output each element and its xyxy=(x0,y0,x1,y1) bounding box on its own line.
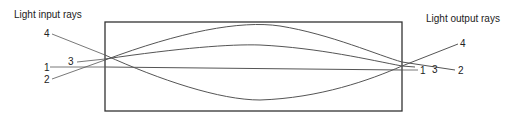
output-rays-label: Light output rays xyxy=(426,13,500,24)
ray-2-left-label: 2 xyxy=(44,74,50,85)
graded-index-rod-diagram: Light input rays Light output rays 1 1 2… xyxy=(0,0,513,119)
ray-1-right-label: 1 xyxy=(420,65,426,76)
rod-body xyxy=(105,22,402,111)
ray-2: 2 2 xyxy=(44,24,464,85)
ray-1: 1 1 xyxy=(44,62,426,76)
ray-4-left-label: 4 xyxy=(44,28,50,39)
ray-4-right-label: 4 xyxy=(460,38,466,49)
ray-1-left-label: 1 xyxy=(44,62,50,73)
ray-3-left-label: 3 xyxy=(68,56,74,67)
ray-3-right-label: 3 xyxy=(432,64,438,75)
ray-2-right-label: 2 xyxy=(458,65,464,76)
ray-3: 3 3 xyxy=(68,45,438,75)
ray-4: 4 4 xyxy=(44,28,466,100)
input-rays-label: Light input rays xyxy=(14,9,82,20)
